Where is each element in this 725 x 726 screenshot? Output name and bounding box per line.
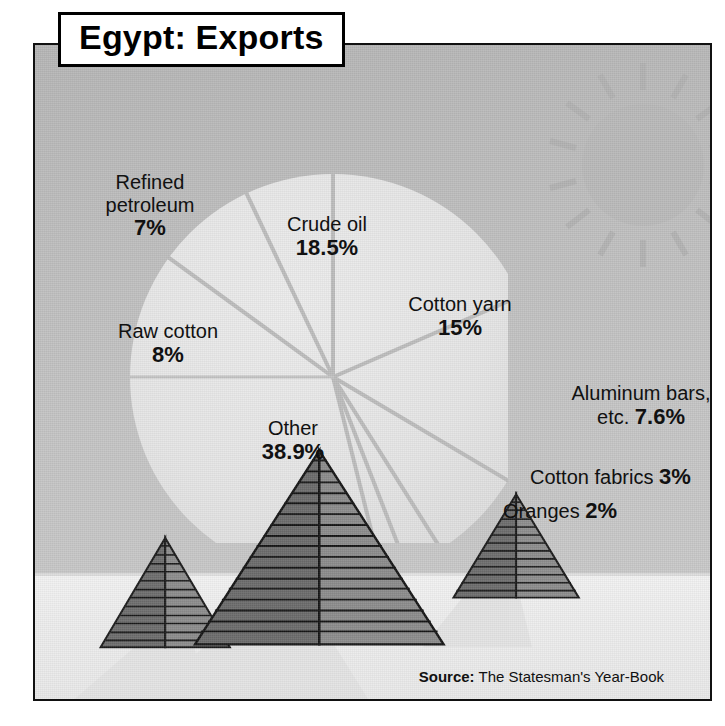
label-crude-oil-name: Crude oil	[257, 213, 397, 236]
label-cotton-yarn: Cotton yarn 15%	[390, 293, 530, 340]
label-refined-petroleum-line1: Refined	[80, 171, 220, 194]
label-cotton-fabrics: Cotton fabrics 3%	[530, 465, 691, 490]
label-oranges-name: Oranges	[503, 500, 580, 522]
label-other-name: Other	[223, 417, 363, 440]
label-refined-petroleum-value: 7%	[80, 216, 220, 241]
label-refined-petroleum-line2: petroleum	[80, 194, 220, 217]
label-aluminum-bars: Aluminum bars, etc. 7.6%	[551, 382, 712, 429]
pyramid-large-center	[195, 451, 444, 645]
label-raw-cotton-value: 8%	[93, 343, 243, 368]
label-raw-cotton: Raw cotton 8%	[93, 320, 243, 367]
label-cotton-yarn-name: Cotton yarn	[390, 293, 530, 316]
label-raw-cotton-name: Raw cotton	[93, 320, 243, 343]
label-other: Other 38.9%	[223, 417, 363, 464]
label-refined-petroleum: Refined petroleum 7%	[80, 171, 220, 241]
label-cotton-fabrics-value: 3%	[659, 464, 691, 489]
source-text: The Statesman's Year-Book	[479, 668, 664, 685]
source-prefix: Source:	[419, 668, 475, 685]
source-attribution: Source: The Statesman's Year-Book	[419, 668, 664, 685]
infographic-root: Refined petroleum 7% Crude oil 18.5% Raw…	[0, 0, 725, 726]
label-oranges: Oranges 2%	[503, 499, 617, 524]
label-crude-oil: Crude oil 18.5%	[257, 213, 397, 260]
page-title: Egypt: Exports	[79, 20, 324, 56]
label-aluminum-bars-line1: Aluminum bars,	[551, 382, 712, 405]
label-cotton-fabrics-name: Cotton fabrics	[530, 466, 653, 488]
label-crude-oil-value: 18.5%	[257, 236, 397, 261]
label-oranges-value: 2%	[585, 498, 617, 523]
label-aluminum-bars-line2: etc. 7.6%	[551, 405, 712, 430]
chart-panel: Refined petroleum 7% Crude oil 18.5% Raw…	[33, 43, 712, 701]
pyramids-group	[35, 45, 710, 699]
title-box: Egypt: Exports	[58, 12, 345, 67]
label-other-value: 38.9%	[223, 440, 363, 465]
label-aluminum-bars-value: 7.6%	[635, 404, 685, 429]
label-cotton-yarn-value: 15%	[390, 316, 530, 341]
